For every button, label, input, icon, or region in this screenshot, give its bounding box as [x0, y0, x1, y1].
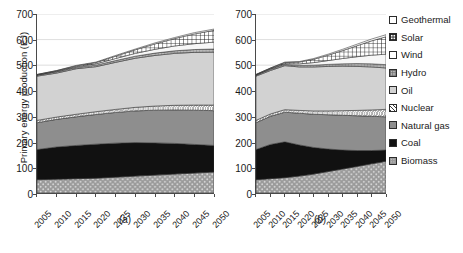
y-axis-tick-mark — [33, 117, 36, 118]
y-axis-tick-label: 500 — [222, 60, 252, 71]
x-axis-tick-mark — [386, 194, 387, 197]
figure-root: Primary energy production (EJ) 010020030… — [0, 0, 463, 253]
legend-item[interactable]: Oil — [389, 81, 463, 99]
plot-area-a — [36, 14, 214, 194]
y-axis-tick-label: 600 — [222, 34, 252, 45]
y-axis-tick-mark — [252, 117, 255, 118]
legend-item-label: Natural gas — [401, 120, 450, 131]
x-axis-tick-mark — [115, 194, 116, 197]
x-axis-tick-mark — [371, 194, 372, 197]
legend-swatch-geothermal — [389, 16, 397, 24]
x-axis-tick-mark — [155, 194, 156, 197]
legend-item-label: Oil — [401, 85, 413, 96]
y-axis-tick-mark — [33, 14, 36, 15]
y-axis-tick-mark — [252, 65, 255, 66]
plot-area-b — [255, 14, 386, 194]
legend-item[interactable]: Natural gas — [389, 117, 463, 135]
y-axis-tick-mark — [252, 143, 255, 144]
legend-item-label: Wind — [401, 49, 423, 60]
y-axis-tick-label: 0 — [222, 189, 252, 200]
y-axis-tick-mark — [33, 143, 36, 144]
y-axis-tick-label: 200 — [3, 137, 33, 148]
x-axis-tick-label: 2040 — [171, 209, 192, 230]
x-axis-tick-mark — [328, 194, 329, 197]
legend-item-label: Nuclear — [401, 102, 434, 113]
y-axis-tick-mark — [252, 14, 255, 15]
x-axis-tick-mark — [194, 194, 195, 197]
y-axis-tick-label: 100 — [222, 163, 252, 174]
legend-item[interactable]: Nuclear — [389, 99, 463, 117]
legend-item-label: Geothermal — [401, 14, 451, 25]
legend-swatch-natural-gas — [389, 121, 397, 129]
x-axis-tick-mark — [36, 194, 37, 197]
legend-swatch-solar — [389, 33, 397, 41]
x-axis-tick-mark — [56, 194, 57, 197]
legend-swatch-wind — [389, 51, 397, 59]
y-axis-tick-mark — [33, 40, 36, 41]
y-axis-tick-label: 400 — [3, 86, 33, 97]
x-axis-tick-mark — [174, 194, 175, 197]
y-axis-tick-mark — [33, 91, 36, 92]
y-axis-tick-label: 400 — [222, 86, 252, 97]
stacked-area-a — [37, 14, 214, 193]
chart-panel-a: 0100200300400500600700200520102015202020… — [36, 14, 214, 194]
legend-item-label: Biomass — [401, 155, 437, 166]
legend-item-label: Solar — [401, 32, 423, 43]
legend-item[interactable]: Hydro — [389, 64, 463, 82]
legend-item-label: Hydro — [401, 67, 426, 78]
x-axis-tick-label: 2005 — [32, 209, 53, 230]
legend: GeothermalSolarWindHydroOilNuclearNatura… — [389, 11, 463, 169]
legend-swatch-oil — [389, 86, 397, 94]
y-axis-tick-label: 300 — [3, 111, 33, 122]
stacked-area-b — [256, 14, 386, 193]
x-axis-tick-label: 2045 — [190, 209, 211, 230]
y-axis-tick-mark — [33, 168, 36, 169]
y-axis-tick-label: 0 — [3, 189, 33, 200]
legend-swatch-nuclear — [389, 104, 397, 112]
caption-b: (b) — [280, 214, 360, 225]
chart-panel-b: 0100200300400500600700200520102015202020… — [255, 14, 386, 194]
legend-swatch-biomass — [389, 157, 397, 165]
x-axis-tick-label: 2010 — [52, 209, 73, 230]
caption-a: (a) — [85, 214, 165, 225]
y-axis-tick-mark — [252, 168, 255, 169]
y-axis-tick-mark — [252, 40, 255, 41]
x-axis-tick-mark — [313, 194, 314, 197]
x-axis-tick-mark — [135, 194, 136, 197]
x-axis-tick-mark — [299, 194, 300, 197]
y-axis-tick-label: 700 — [3, 9, 33, 20]
legend-item[interactable]: Geothermal — [389, 11, 463, 29]
x-axis-tick-mark — [357, 194, 358, 197]
x-axis-tick-mark — [95, 194, 96, 197]
y-axis-tick-label: 500 — [3, 60, 33, 71]
x-axis-tick-mark — [255, 194, 256, 197]
y-axis-tick-label: 600 — [3, 34, 33, 45]
legend-item[interactable]: Biomass — [389, 152, 463, 170]
x-axis-tick-mark — [270, 194, 271, 197]
y-axis-tick-mark — [252, 91, 255, 92]
y-axis-tick-label: 100 — [3, 163, 33, 174]
x-axis-tick-label: 2050 — [210, 209, 231, 230]
y-axis-tick-mark — [33, 65, 36, 66]
legend-item[interactable]: Wind — [389, 46, 463, 64]
y-axis-tick-label: 300 — [222, 111, 252, 122]
legend-item-label: Coal — [401, 137, 421, 148]
legend-item[interactable]: Coal — [389, 134, 463, 152]
legend-item[interactable]: Solar — [389, 29, 463, 47]
y-axis-tick-label: 700 — [222, 9, 252, 20]
y-axis-tick-label: 200 — [222, 137, 252, 148]
x-axis-tick-mark — [284, 194, 285, 197]
x-axis-tick-mark — [214, 194, 215, 197]
legend-swatch-coal — [389, 139, 397, 147]
x-axis-tick-mark — [76, 194, 77, 197]
x-axis-tick-mark — [342, 194, 343, 197]
legend-swatch-hydro — [389, 69, 397, 77]
